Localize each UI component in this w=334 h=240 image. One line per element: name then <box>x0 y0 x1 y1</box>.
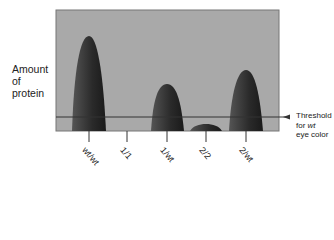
threshold-line-1: Threshold <box>296 111 332 121</box>
threshold-label: Threshold for wt eye color <box>296 111 332 140</box>
threshold-line-2: for wt <box>296 121 332 131</box>
threshold-wt: wt <box>308 121 316 130</box>
threshold-arrow-icon <box>283 115 290 120</box>
threshold-line-3: eye color <box>296 130 332 140</box>
threshold-for: for <box>296 121 308 130</box>
x-ticks <box>89 131 246 142</box>
